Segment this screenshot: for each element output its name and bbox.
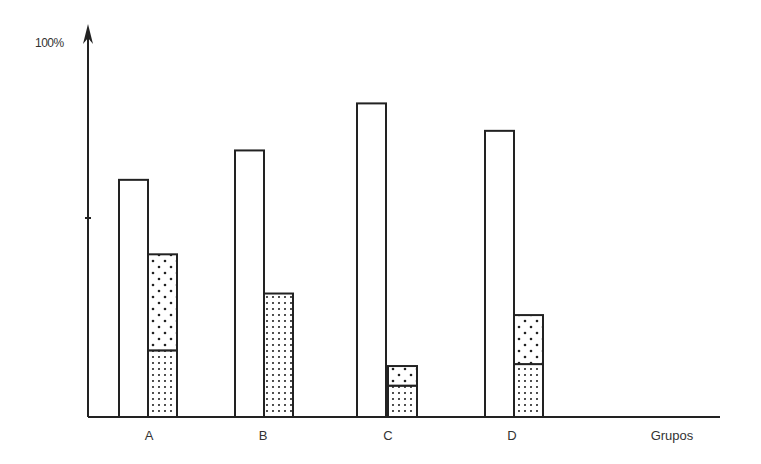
bars-group [119,103,543,417]
bar-a-sparse [148,254,177,350]
x-axis-title: Grupos [651,428,694,443]
bar-c-dense [388,386,417,417]
x-category-label-d: D [507,428,516,443]
bar-b-total [235,150,264,417]
bar-c-total [357,103,386,417]
bar-d-dense [514,364,543,417]
x-category-label-a: A [145,428,154,443]
bar-d-total [485,131,514,417]
bar-a-total [119,180,148,417]
chart-container: 100% A B C D Grupos [0,0,761,464]
x-category-label-b: B [259,428,268,443]
bar-b-dense [264,294,293,417]
bar-chart-plot [0,0,761,464]
bar-c-sparse [388,366,417,386]
y-axis-label: 100% [35,36,64,50]
bar-d-sparse [514,315,543,364]
x-category-label-c: C [383,428,392,443]
bar-a-dense [148,350,177,417]
